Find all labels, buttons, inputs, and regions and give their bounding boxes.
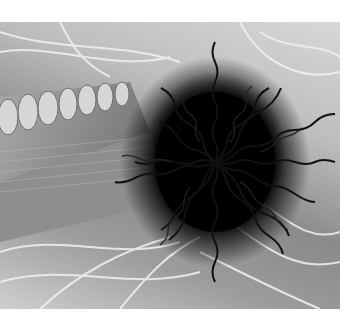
micrograph-image (0, 22, 340, 309)
micrograph-drawing (0, 22, 340, 309)
